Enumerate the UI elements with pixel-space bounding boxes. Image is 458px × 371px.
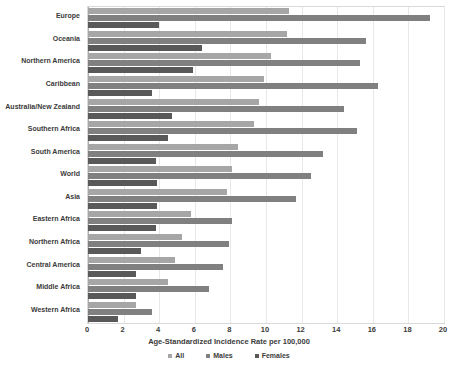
bar-all: [88, 121, 254, 127]
category-label: World: [0, 170, 80, 178]
bar-females: [88, 22, 159, 28]
category-label: Eastern Africa: [0, 215, 80, 223]
bar-group: [88, 189, 444, 209]
bar-males: [88, 218, 232, 224]
bar-group: [88, 234, 444, 254]
bar-males: [88, 173, 311, 179]
bar-all: [88, 53, 271, 59]
bar-females: [88, 203, 157, 209]
x-tick-label: 10: [261, 325, 269, 334]
legend-label: Females: [262, 352, 290, 359]
category-label: Asia: [0, 193, 80, 201]
x-tick-label: 6: [192, 325, 196, 334]
x-tick-label: 4: [156, 325, 160, 334]
bar-chart: EuropeOceaniaNorthern AmericaCaribbeanAu…: [0, 0, 458, 371]
bar-males: [88, 60, 360, 66]
bar-group: [88, 8, 444, 28]
legend-swatch-icon: [255, 354, 259, 358]
bar-females: [88, 113, 172, 119]
bar-group: [88, 53, 444, 73]
bar-males: [88, 196, 296, 202]
bar-group: [88, 121, 444, 141]
bar-group: [88, 279, 444, 299]
bar-group: [88, 99, 444, 119]
bar-all: [88, 166, 232, 172]
gridline: [444, 7, 445, 323]
bars-layer: [88, 7, 444, 323]
category-axis-labels: EuropeOceaniaNorthern AmericaCaribbeanAu…: [0, 6, 84, 322]
bar-males: [88, 83, 378, 89]
bar-all: [88, 76, 264, 82]
bar-all: [88, 279, 168, 285]
bar-males: [88, 38, 366, 44]
bar-females: [88, 293, 136, 299]
chart-legend: AllMalesFemales: [0, 352, 458, 359]
bar-males: [88, 241, 229, 247]
legend-label: Males: [213, 352, 232, 359]
bar-males: [88, 151, 323, 157]
category-label: Central America: [0, 261, 80, 269]
x-tick-label: 20: [439, 325, 447, 334]
category-label: South America: [0, 148, 80, 156]
bar-group: [88, 166, 444, 186]
bar-females: [88, 180, 157, 186]
bar-females: [88, 225, 156, 231]
bar-group: [88, 257, 444, 277]
bar-males: [88, 106, 344, 112]
bar-all: [88, 99, 259, 105]
bar-females: [88, 271, 136, 277]
bar-all: [88, 8, 289, 14]
bar-group: [88, 211, 444, 231]
plot-area: [87, 6, 445, 324]
bar-females: [88, 90, 152, 96]
category-label: Caribbean: [0, 80, 80, 88]
bar-all: [88, 257, 175, 263]
bar-females: [88, 316, 118, 322]
x-tick-label: 18: [403, 325, 411, 334]
bar-females: [88, 45, 202, 51]
category-label: Oceania: [0, 35, 80, 43]
bar-group: [88, 302, 444, 322]
bar-group: [88, 31, 444, 51]
bar-all: [88, 302, 136, 308]
bar-males: [88, 286, 209, 292]
x-tick-label: 12: [296, 325, 304, 334]
bar-all: [88, 144, 238, 150]
bar-group: [88, 144, 444, 164]
bar-all: [88, 211, 191, 217]
bar-females: [88, 158, 156, 164]
legend-item-males[interactable]: Males: [206, 352, 232, 359]
bar-all: [88, 189, 227, 195]
bar-all: [88, 234, 182, 240]
x-tick-label: 16: [368, 325, 376, 334]
bar-males: [88, 15, 430, 21]
category-label: Northern Africa: [0, 238, 80, 246]
x-tick-label: 8: [227, 325, 231, 334]
category-label: Australia/New Zealand: [0, 103, 80, 111]
x-tick-label: 2: [121, 325, 125, 334]
bar-females: [88, 135, 168, 141]
category-label: Middle Africa: [0, 283, 80, 291]
category-label: Northern America: [0, 57, 80, 65]
legend-label: All: [175, 352, 184, 359]
bar-males: [88, 309, 152, 315]
bar-group: [88, 76, 444, 96]
bar-females: [88, 67, 193, 73]
bar-males: [88, 128, 357, 134]
x-tick-label: 14: [332, 325, 340, 334]
bar-males: [88, 264, 223, 270]
category-label: Europe: [0, 12, 80, 20]
legend-swatch-icon: [168, 354, 172, 358]
bar-females: [88, 248, 141, 254]
x-tick-label: 0: [85, 325, 89, 334]
legend-item-all[interactable]: All: [168, 352, 184, 359]
category-label: Southern Africa: [0, 125, 80, 133]
category-label: Western Africa: [0, 306, 80, 314]
x-axis-title: Age-Standardized Incidence Rate per 100,…: [0, 337, 458, 346]
legend-swatch-icon: [206, 354, 210, 358]
legend-item-females[interactable]: Females: [255, 352, 290, 359]
bar-all: [88, 31, 287, 37]
